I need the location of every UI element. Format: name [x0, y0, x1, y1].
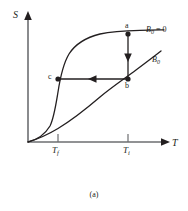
point-label-b: b	[125, 82, 129, 90]
curve-zero-field	[28, 30, 164, 142]
entropy-temperature-figure: S T Tf Ti B0 = 0 B0 a b c (a)	[0, 0, 188, 211]
point-label-a: a	[125, 22, 129, 30]
curve-label-zero-field: B0 = 0	[146, 26, 166, 34]
y-axis-label: S	[13, 10, 18, 20]
tick-ti-sub: i	[128, 149, 130, 156]
tick-tf-sub: f	[57, 149, 59, 156]
zero-field-eq: = 0	[154, 25, 167, 34]
point-label-c: c	[48, 73, 52, 81]
point-c	[55, 76, 60, 81]
applied-field-sub: 0	[157, 59, 160, 65]
process-arrow-a-to-b	[124, 34, 132, 79]
process-arrow-b-to-c	[58, 75, 128, 83]
zero-field-sub: 0	[151, 29, 154, 35]
x-axis-label: T	[172, 138, 178, 148]
state-points	[55, 31, 130, 81]
figure-caption: (a)	[0, 190, 188, 199]
point-a	[125, 31, 130, 36]
curve-label-applied-field: B0	[152, 56, 160, 64]
x-axis-ticks	[58, 134, 128, 142]
y-axis	[24, 11, 32, 142]
x-tick-label-tf: Tf	[52, 146, 59, 155]
x-axis	[28, 138, 170, 146]
x-tick-label-ti: Ti	[123, 146, 130, 155]
